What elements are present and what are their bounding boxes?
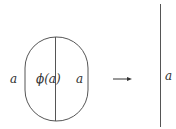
right-line-label: a: [165, 69, 172, 83]
center-label: ϕ(a): [36, 72, 61, 86]
diagram-canvas: a ϕ(a) a a: [0, 0, 176, 129]
right-arrow-icon: [113, 77, 132, 81]
inner-right-label: a: [76, 72, 83, 86]
outer-left-label: a: [10, 72, 17, 86]
